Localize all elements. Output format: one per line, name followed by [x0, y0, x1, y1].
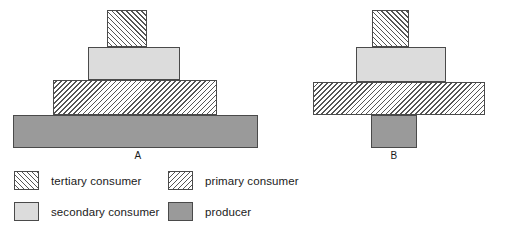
pyramid-b-label: B [379, 150, 409, 161]
legend-swatch-tertiary-consumer [14, 171, 39, 190]
pyramid-a-tier-secondary-consumer [88, 47, 180, 80]
legend-swatch-secondary-consumer [14, 202, 39, 221]
pyramid-b-tier-tertiary-consumer [372, 10, 409, 47]
pyramid-b: B [290, 0, 507, 165]
legend-label-tertiary-consumer: tertiary consumer [51, 175, 142, 187]
pyramid-a-tier-tertiary-consumer [107, 10, 147, 47]
legend-swatch-producer [168, 202, 193, 221]
legend-label-primary-consumer: primary consumer [205, 175, 299, 187]
legend-item-producer: producer [168, 202, 251, 221]
pyramid-b-tier-secondary-consumer [356, 47, 446, 82]
pyramid-b-tier-producer [371, 115, 417, 148]
pyramid-a: A [0, 0, 290, 165]
pyramid-a-label: A [118, 150, 158, 161]
pyramid-b-tier-primary-consumer [313, 82, 485, 115]
legend: tertiary consumer primary consumer secon… [14, 171, 494, 229]
legend-item-primary-consumer: primary consumer [168, 171, 299, 190]
pyramid-a-tier-producer [13, 115, 258, 148]
legend-label-producer: producer [205, 206, 251, 218]
pyramid-a-tier-primary-consumer [53, 80, 217, 115]
legend-item-tertiary-consumer: tertiary consumer [14, 171, 142, 190]
legend-label-secondary-consumer: secondary consumer [51, 206, 160, 218]
legend-item-secondary-consumer: secondary consumer [14, 202, 160, 221]
ecological-pyramid-figure: A B tertiary consumer primary consumer s… [0, 0, 507, 240]
legend-swatch-primary-consumer [168, 171, 193, 190]
